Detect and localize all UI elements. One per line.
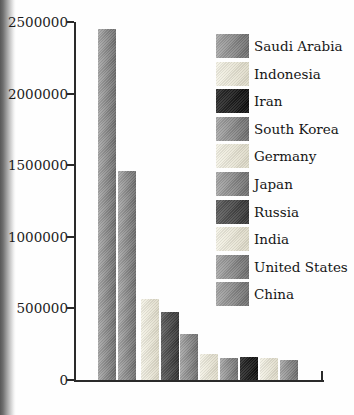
legend-row: Saudi Arabia [216,34,348,58]
legend-label: Japan [254,172,293,196]
legend-label: Iran [254,89,283,113]
legend-swatch [216,62,249,86]
y-tick-mark [67,379,74,381]
bar-united-states [118,171,136,380]
legend-swatch [216,89,249,113]
y-tick-label: 500000 [0,300,68,316]
y-tick-mark [67,164,74,166]
bar-india [141,299,159,380]
y-tick-mark [67,93,74,95]
y-tick-label: 2000000 [0,86,68,102]
y-tick-mark [67,307,74,309]
legend-label: India [254,227,289,251]
legend-row: Germany [216,144,348,168]
legend-row: Russia [216,200,348,224]
legend-swatch [216,227,249,251]
y-axis-line [74,22,77,380]
legend-label: Germany [254,144,316,168]
legend-swatch [216,172,249,196]
bar-chart-figure: 25000002000000150000010000005000000 Saud… [0,0,354,415]
legend-row: United States [216,255,348,279]
bar-iran [240,357,258,380]
y-tick-label: 2500000 [0,14,68,30]
legend-row: Iran [216,89,348,113]
legend-swatch [216,34,249,58]
legend-label: China [254,282,294,306]
legend-row: Japan [216,172,348,196]
y-tick-mark [67,236,74,238]
bar-japan [180,334,198,381]
legend-swatch [216,255,249,279]
legend-row: India [216,227,348,251]
bar-indonesia [260,358,278,380]
legend-swatch [216,144,249,168]
bar-china [98,29,116,380]
bar-germany [200,354,218,381]
legend-swatch [216,282,249,306]
legend-row: Indonesia [216,62,348,86]
legend-label: South Korea [254,117,339,141]
legend-swatch [216,200,249,224]
bar-russia [161,312,179,380]
legend-label: Saudi Arabia [254,34,343,58]
legend-label: Russia [254,200,299,224]
legend: Saudi ArabiaIndonesiaIranSouth KoreaGerm… [216,34,348,306]
legend-label: Indonesia [254,62,321,86]
y-tick-label: 1000000 [0,229,68,245]
y-tick-label: 1500000 [0,157,68,173]
legend-row: South Korea [216,117,348,141]
legend-label: United States [254,255,348,279]
y-tick-mark [67,21,74,23]
page-gutter-shadow [0,0,16,415]
x-axis-end-tick [321,371,323,380]
legend-row: China [216,282,348,306]
y-tick-label: 0 [0,372,68,388]
bar-saudi-arabia [280,360,298,380]
legend-swatch [216,117,249,141]
bar-south-korea [220,358,238,380]
